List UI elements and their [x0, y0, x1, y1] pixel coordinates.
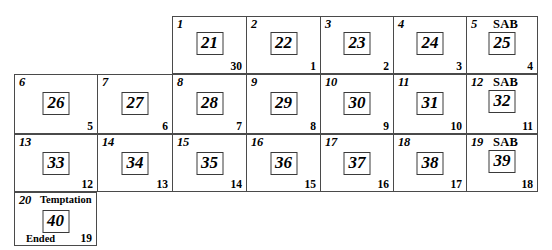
cell-index: 10 — [325, 76, 337, 89]
grid-cell-11[interactable]: 11 31 10 — [393, 74, 466, 134]
cell-count: 5 — [87, 120, 93, 133]
grid-cell-2[interactable]: 2 22 1 — [246, 16, 320, 74]
cell-value: 34 — [122, 152, 149, 175]
cell-value: 29 — [270, 92, 297, 115]
cell-count: 13 — [157, 178, 169, 191]
cell-count: 1 — [310, 60, 316, 73]
cell-count: 2 — [383, 60, 389, 73]
cell-index: 5 — [471, 18, 477, 31]
cell-index: 6 — [19, 76, 25, 89]
cell-value: 40 — [42, 210, 69, 233]
cell-index: 13 — [19, 136, 31, 149]
cell-count: 19 — [81, 232, 93, 245]
cell-value: 38 — [417, 152, 444, 175]
grid-cell-15[interactable]: 15 35 14 — [172, 134, 246, 192]
grid-cell-16[interactable]: 16 36 15 — [246, 134, 320, 192]
cell-index: 4 — [398, 18, 404, 31]
cell-value: 23 — [344, 32, 371, 55]
trial-grid: 1 21 30 2 22 1 3 23 2 4 24 3 5 SAB 25 4 — [14, 16, 538, 246]
cell-value: 33 — [43, 152, 70, 175]
grid-cell-20[interactable]: 20 Temptation 40 Ended 19 — [14, 192, 97, 246]
cell-index: 9 — [251, 76, 257, 89]
grid-cell-1[interactable]: 1 21 30 — [172, 16, 246, 74]
cell-value: 30 — [344, 92, 371, 115]
cell-count: 3 — [456, 60, 462, 73]
cell-count: 18 — [522, 178, 534, 191]
cell-count: 4 — [527, 60, 533, 73]
cell-count: 15 — [305, 178, 317, 191]
cell-count: 12 — [82, 178, 94, 191]
grid-cell-4[interactable]: 4 24 3 — [393, 16, 466, 74]
grid-cell-17[interactable]: 17 37 16 — [320, 134, 393, 192]
grid-cell-7[interactable]: 7 27 6 — [97, 74, 172, 134]
cell-index: 20 — [19, 194, 31, 207]
cell-value: 31 — [417, 92, 444, 115]
cell-value: 22 — [270, 32, 297, 55]
cell-value: 39 — [489, 150, 516, 173]
cell-index: 15 — [177, 136, 189, 149]
cell-count: 17 — [451, 178, 463, 191]
cell-index: 11 — [398, 76, 409, 89]
cell-count: 11 — [522, 120, 533, 133]
cell-value: 25 — [489, 32, 516, 55]
cell-index: 3 — [325, 18, 331, 31]
cell-index: 19 — [471, 136, 483, 149]
cell-index: 2 — [251, 18, 257, 31]
cell-value: 35 — [196, 152, 223, 175]
cell-count: 30 — [231, 60, 243, 73]
grid-row-4: 20 Temptation 40 Ended 19 — [14, 192, 97, 246]
cell-count: 8 — [310, 120, 316, 133]
cell-count: 6 — [162, 120, 168, 133]
grid-cell-5[interactable]: 5 SAB 25 4 — [466, 16, 538, 74]
sab-badge: SAB — [493, 76, 518, 89]
cell-index: 17 — [325, 136, 337, 149]
cell-index: 12 — [471, 76, 483, 89]
cell-index: 7 — [102, 76, 108, 89]
cell-count: 7 — [236, 120, 242, 133]
temptation-label: Temptation — [40, 194, 92, 206]
cell-index: 16 — [251, 136, 263, 149]
grid-cell-13[interactable]: 13 33 12 — [14, 134, 97, 192]
cell-value: 32 — [489, 90, 516, 113]
grid-cell-6[interactable]: 6 26 5 — [14, 74, 97, 134]
cell-value: 37 — [344, 152, 371, 175]
cell-value: 36 — [270, 152, 297, 175]
grid-cell-9[interactable]: 9 29 8 — [246, 74, 320, 134]
cell-count: 9 — [383, 120, 389, 133]
cell-value: 26 — [43, 92, 70, 115]
sab-badge: SAB — [493, 136, 518, 149]
ended-label: Ended — [26, 232, 55, 245]
cell-count: 16 — [378, 178, 390, 191]
cell-count: 10 — [451, 120, 463, 133]
grid-cell-3[interactable]: 3 23 2 — [320, 16, 393, 74]
cell-index: 18 — [398, 136, 410, 149]
grid-row-3: 13 33 12 14 34 13 15 35 14 16 36 15 17 3… — [14, 134, 538, 192]
cell-value: 24 — [417, 32, 444, 55]
grid-cell-12[interactable]: 12 SAB 32 11 — [466, 74, 538, 134]
cell-index: 8 — [177, 76, 183, 89]
grid-cell-18[interactable]: 18 38 17 — [393, 134, 466, 192]
grid-cell-8[interactable]: 8 28 7 — [172, 74, 246, 134]
cell-index: 1 — [177, 18, 183, 31]
grid-cell-19[interactable]: 19 SAB 39 18 — [466, 134, 538, 192]
grid-row-1: 1 21 30 2 22 1 3 23 2 4 24 3 5 SAB 25 4 — [172, 16, 538, 74]
cell-index: 14 — [102, 136, 114, 149]
grid-cell-10[interactable]: 10 30 9 — [320, 74, 393, 134]
cell-value: 27 — [122, 92, 149, 115]
cell-value: 21 — [196, 32, 223, 55]
cell-value: 28 — [196, 92, 223, 115]
grid-cell-14[interactable]: 14 34 13 — [97, 134, 172, 192]
sab-badge: SAB — [493, 18, 518, 31]
cell-count: 14 — [231, 178, 243, 191]
grid-row-2: 6 26 5 7 27 6 8 28 7 9 29 8 10 30 9 11 3… — [14, 74, 538, 134]
